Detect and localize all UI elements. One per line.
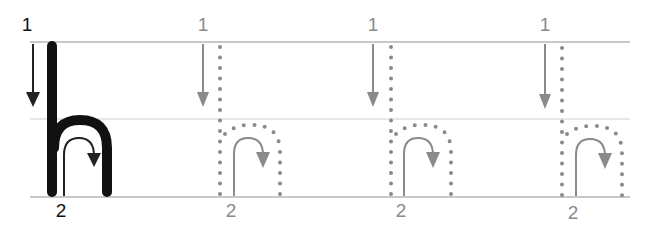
stroke-1-number: 1 bbox=[368, 14, 379, 35]
down-arrow-icon bbox=[539, 94, 551, 109]
stroke-1-number: 1 bbox=[198, 14, 209, 35]
model-letter-h: 1 2 bbox=[22, 14, 107, 221]
handwriting-worksheet: 1 2 1 2 1 2 1 bbox=[0, 0, 650, 235]
stroke-1-number: 1 bbox=[22, 14, 33, 35]
stroke-2-number: 2 bbox=[568, 202, 579, 223]
guide-lines bbox=[30, 42, 630, 197]
trace-letter-h-1: 1 2 bbox=[197, 14, 280, 221]
stroke-2-number: 2 bbox=[396, 200, 407, 221]
curve-arrow-icon bbox=[598, 153, 612, 169]
down-arrow-icon bbox=[197, 92, 209, 107]
down-arrow-icon bbox=[26, 92, 40, 107]
trace-letter-h-2: 1 2 bbox=[367, 14, 451, 221]
stroke-2-number: 2 bbox=[226, 200, 237, 221]
curve-arrow-icon bbox=[426, 152, 440, 168]
curve-arrow-icon bbox=[87, 153, 101, 167]
stroke-1-number: 1 bbox=[540, 14, 551, 35]
curve-arrow-icon bbox=[256, 152, 270, 168]
stroke-2-number: 2 bbox=[56, 200, 67, 221]
down-arrow-icon bbox=[367, 92, 379, 107]
